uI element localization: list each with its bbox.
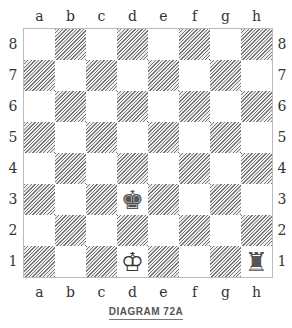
square-b2 [55,215,86,246]
file-label: a [24,284,55,300]
square-g3 [210,184,241,215]
square-g8 [210,29,241,60]
diagram-caption: DIAGRAM 72A [0,300,292,319]
square-b6 [55,91,86,122]
square-e4 [148,153,179,184]
square-a3 [24,184,55,215]
black-rook-icon: ♜ [245,249,268,275]
square-g4 [210,153,241,184]
rank-label: 1 [274,246,290,277]
square-b8 [55,29,86,60]
rank-label: 6 [5,91,21,122]
square-c7 [86,60,117,91]
square-e3 [148,184,179,215]
rank-label: 7 [274,60,290,91]
file-labels-top: a b c d e f g h [24,8,272,24]
caption-text: DIAGRAM 72A [109,306,183,320]
square-f4 [179,153,210,184]
square-a2 [24,215,55,246]
square-e5 [148,122,179,153]
file-label: e [148,8,179,24]
square-f3 [179,184,210,215]
square-g1 [210,246,241,277]
square-d8 [117,29,148,60]
square-g7 [210,60,241,91]
rank-label: 1 [5,246,21,277]
rank-label: 2 [274,215,290,246]
rank-label: 3 [274,184,290,215]
file-label: h [241,284,272,300]
file-label: g [210,284,241,300]
file-label: b [55,284,86,300]
square-f2 [179,215,210,246]
square-d2 [117,215,148,246]
square-c1 [86,246,117,277]
file-label: g [210,8,241,24]
file-label: f [179,8,210,24]
square-f6 [179,91,210,122]
rank-label: 5 [274,122,290,153]
square-g2 [210,215,241,246]
white-king-icon: ♔ [121,249,144,275]
square-a6 [24,91,55,122]
square-c5 [86,122,117,153]
square-h7 [241,60,272,91]
square-h8 [241,29,272,60]
square-e2 [148,215,179,246]
rank-label: 4 [274,153,290,184]
file-labels-bottom: a b c d e f g h [24,284,272,300]
square-a4 [24,153,55,184]
file-label: h [241,8,272,24]
rank-labels-left: 8 7 6 5 4 3 2 1 [5,29,21,277]
file-label: c [86,8,117,24]
square-f7 [179,60,210,91]
square-e7 [148,60,179,91]
rank-label: 8 [274,29,290,60]
square-a1 [24,246,55,277]
square-d1: ♔ [117,246,148,277]
square-d3: ♚ [117,184,148,215]
square-g5 [210,122,241,153]
square-g6 [210,91,241,122]
square-d4 [117,153,148,184]
file-label: b [55,8,86,24]
square-b7 [55,60,86,91]
square-f1 [179,246,210,277]
square-c3 [86,184,117,215]
square-h4 [241,153,272,184]
rank-label: 2 [5,215,21,246]
square-h3 [241,184,272,215]
square-e8 [148,29,179,60]
file-label: d [117,284,148,300]
square-c4 [86,153,117,184]
square-d5 [117,122,148,153]
file-label: a [24,8,55,24]
square-a5 [24,122,55,153]
square-a7 [24,60,55,91]
square-e1 [148,246,179,277]
square-c6 [86,91,117,122]
square-a8 [24,29,55,60]
rank-label: 4 [5,153,21,184]
file-label: e [148,284,179,300]
rank-labels-right: 8 7 6 5 4 3 2 1 [274,29,290,277]
rank-label: 3 [5,184,21,215]
square-c8 [86,29,117,60]
square-b3 [55,184,86,215]
rank-label: 7 [5,60,21,91]
square-h1: ♜ [241,246,272,277]
rank-label: 6 [274,91,290,122]
square-c2 [86,215,117,246]
square-e6 [148,91,179,122]
square-b4 [55,153,86,184]
square-f5 [179,122,210,153]
file-label: c [86,284,117,300]
chess-board: ♚♔♜ [24,29,272,277]
rank-label: 8 [5,29,21,60]
file-label: d [117,8,148,24]
square-d6 [117,91,148,122]
black-king-icon: ♚ [121,187,144,213]
square-f8 [179,29,210,60]
square-b1 [55,246,86,277]
file-label: f [179,284,210,300]
